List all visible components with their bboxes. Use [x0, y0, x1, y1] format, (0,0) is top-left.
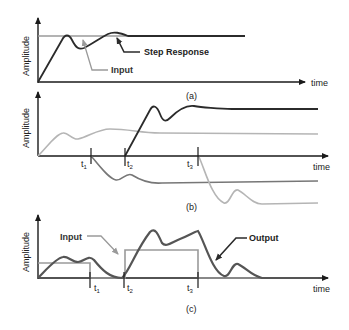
response-3-dark [125, 106, 318, 156]
step-response-pointer [117, 38, 140, 52]
panel-a: Amplitude Step Response Input time (a) [21, 18, 328, 101]
input-pointer [83, 40, 108, 70]
amplitude-label-a: Amplitude [21, 36, 31, 76]
t1-label-b: t1 [81, 159, 88, 170]
step-response-label: Step Response [144, 47, 209, 57]
output-label: Output [249, 233, 279, 243]
panel-b: t1 t2 t3 Amplitude time (b) [21, 92, 330, 212]
figure-canvas: Amplitude Step Response Input time (a) t… [0, 0, 349, 330]
response-1-light [38, 129, 318, 156]
t3-label-c: t3 [187, 283, 194, 294]
time-label-b: time [313, 162, 330, 172]
caption-a: (a) [186, 91, 197, 101]
input-pulses [38, 250, 318, 278]
amplitude-label-c: Amplitude [21, 232, 31, 272]
step-response-curve [38, 33, 245, 82]
caption-b: (b) [186, 202, 197, 212]
amplitude-label-b: Amplitude [21, 108, 31, 148]
output-pointer [216, 238, 247, 260]
t3-label-b: t3 [187, 159, 194, 170]
t2-label-c: t2 [127, 283, 134, 294]
caption-c: (c) [186, 304, 197, 314]
t1-label-c: t1 [94, 283, 101, 294]
input-pointer-c [87, 236, 118, 254]
t2-label-b: t2 [127, 159, 134, 170]
time-label-a: time [311, 78, 328, 88]
time-label-c: time [313, 284, 330, 294]
input-label-c: Input [60, 232, 82, 242]
panel-c: Input Output t1 t2 t3 Amplitude time (c) [21, 215, 330, 314]
input-label-a: Input [111, 65, 133, 75]
